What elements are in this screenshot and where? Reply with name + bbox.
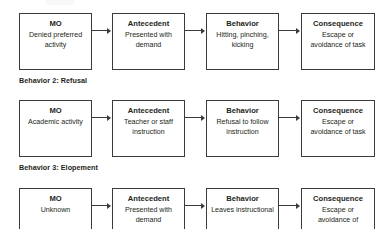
node-title: Antecedent: [113, 194, 184, 205]
arrow-connector: [279, 113, 301, 122]
section-label-behavior-2: Behavior 2: Refusal: [19, 76, 87, 85]
scan-artifact: [46, 0, 74, 5]
behavior-chain-row: MO Unknown Antecedent Presented with dem…: [0, 188, 388, 229]
node-description: Teacher or staff instruction: [113, 117, 184, 137]
node-title: Consequence: [302, 19, 374, 30]
node-mo: MO Academic activity: [19, 100, 92, 157]
node-description: Escape or avoidance of: [302, 205, 374, 225]
arrow-connector: [279, 26, 301, 35]
node-behavior: Behavior Leaves instructional: [206, 188, 279, 229]
node-description: Academic activity: [20, 117, 91, 127]
node-description: Hitting, pinching, kicking: [207, 30, 278, 50]
node-description: Leaves instructional: [207, 205, 278, 215]
node-description: Refusal to follow instruction: [207, 117, 278, 137]
node-title: Antecedent: [113, 106, 184, 117]
node-description: Escape or avoidance of task: [302, 117, 374, 137]
arrow-connector: [279, 201, 301, 210]
node-description: Unknown: [20, 205, 91, 215]
node-title: Consequence: [302, 106, 374, 117]
node-title: Behavior: [207, 194, 278, 205]
node-description: Presented with demand: [113, 30, 184, 50]
node-consequence: Consequence Escape or avoidance of: [301, 188, 375, 229]
node-antecedent: Antecedent Presented with demand: [112, 13, 185, 70]
behavior-chain-row: MO Academic activity Antecedent Teacher …: [0, 100, 388, 158]
arrow-connector: [185, 113, 206, 122]
node-title: Behavior: [207, 106, 278, 117]
arrow-connector: [92, 201, 112, 210]
behavior-chain-row: MO Denied preferred activity Antecedent …: [0, 13, 388, 71]
section-label-behavior-3: Behavior 3: Elopement: [19, 163, 98, 172]
aba-behavior-chain-diagram: MO Denied preferred activity Antecedent …: [0, 0, 388, 229]
arrow-connector: [185, 201, 206, 210]
node-title: Antecedent: [113, 19, 184, 30]
node-title: Behavior: [207, 19, 278, 30]
node-title: MO: [20, 194, 91, 205]
node-title: MO: [20, 106, 91, 117]
node-mo: MO Denied preferred activity: [19, 13, 92, 70]
node-behavior: Behavior Refusal to follow instruction: [206, 100, 279, 157]
node-description: Denied preferred activity: [20, 30, 91, 50]
node-antecedent: Antecedent Presented with demand: [112, 188, 185, 229]
node-behavior: Behavior Hitting, pinching, kicking: [206, 13, 279, 70]
node-description: Presented with demand: [113, 205, 184, 225]
node-mo: MO Unknown: [19, 188, 92, 229]
arrow-connector: [92, 113, 112, 122]
node-title: Consequence: [302, 194, 374, 205]
arrow-connector: [92, 26, 112, 35]
node-antecedent: Antecedent Teacher or staff instruction: [112, 100, 185, 157]
node-consequence: Consequence Escape or avoidance of task: [301, 100, 375, 157]
node-title: MO: [20, 19, 91, 30]
arrow-connector: [185, 26, 206, 35]
node-description: Escape or avoidance of task: [302, 30, 374, 50]
node-consequence: Consequence Escape or avoidance of task: [301, 13, 375, 70]
